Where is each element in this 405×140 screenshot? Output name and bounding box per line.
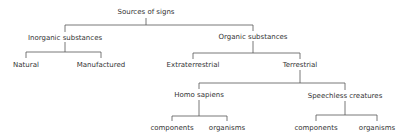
node-homo-sapiens-organisms: organisms (209, 124, 246, 132)
node-manufactured: Manufactured (77, 61, 125, 69)
labels: Sources of signs Inorganic substances Or… (13, 8, 395, 132)
node-speechless-components: components (294, 124, 338, 132)
node-natural: Natural (13, 61, 39, 69)
node-organic-substances: Organic substances (219, 33, 288, 41)
node-homo-sapiens: Homo sapiens (174, 91, 224, 99)
node-inorganic-substances: Inorganic substances (28, 34, 103, 42)
node-speechless-creatures: Speechless creatures (308, 92, 383, 100)
node-speechless-organisms: organisms (359, 124, 396, 132)
node-terrestrial: Terrestrial (282, 61, 318, 69)
node-root: Sources of signs (117, 8, 174, 16)
node-homo-sapiens-components: components (150, 124, 194, 132)
sources-of-signs-tree: Sources of signs Inorganic substances Or… (0, 0, 405, 140)
node-extraterrestrial: Extraterrestrial (167, 61, 220, 69)
